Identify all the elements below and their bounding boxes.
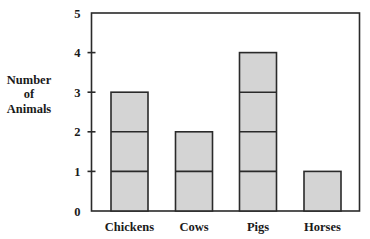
bar-horses — [304, 171, 341, 211]
y-tick-label: 1 — [74, 165, 80, 179]
y-tick-label: 3 — [74, 86, 80, 100]
x-tick-label-cows: Cows — [179, 220, 208, 234]
bar-fill — [111, 92, 148, 211]
y-tick-label: 5 — [74, 7, 80, 21]
y-axis-label-line-3: Animals — [7, 102, 52, 116]
bar-pigs — [240, 53, 277, 211]
y-axis-label-line-1: Number — [7, 73, 52, 87]
x-tick-label-horses: Horses — [304, 220, 341, 234]
bar-chickens — [111, 92, 148, 211]
bar-chart: Number of Animals 012345 ChickensCowsPig… — [0, 0, 370, 239]
y-axis-label-line-2: of — [24, 87, 35, 101]
x-tick-label-chickens: Chickens — [105, 220, 154, 234]
bar-fill — [304, 171, 341, 211]
y-axis-ticks: 012345 — [74, 7, 95, 219]
y-tick-label: 2 — [74, 125, 80, 139]
x-axis-labels: ChickensCowsPigsHorses — [105, 220, 341, 234]
bar-cows — [176, 132, 213, 211]
y-tick-label: 0 — [74, 205, 80, 219]
y-axis-label: Number of Animals — [7, 73, 52, 116]
bars — [111, 53, 341, 211]
x-tick-label-pigs: Pigs — [247, 220, 269, 234]
y-tick-label: 4 — [74, 46, 81, 60]
